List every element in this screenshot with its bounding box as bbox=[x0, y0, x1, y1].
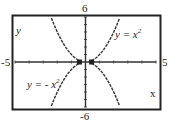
exponent: 2 bbox=[56, 77, 60, 85]
curve-neg-x-squared bbox=[92, 63, 120, 106]
x-axis-label: x bbox=[150, 88, 156, 99]
ymax-label: 6 bbox=[82, 3, 88, 14]
curve-label-upper-text: y = x bbox=[115, 28, 138, 40]
curve-x-squared bbox=[51, 18, 79, 61]
point-marker bbox=[89, 60, 94, 65]
curve-label-upper: y = x2 bbox=[115, 28, 141, 40]
y-axis-label: y bbox=[16, 25, 21, 36]
xmin-label: -5 bbox=[1, 57, 10, 68]
ymin-label: -6 bbox=[80, 111, 89, 122]
xmax-label: 5 bbox=[162, 57, 168, 68]
point-marker bbox=[77, 60, 82, 65]
plot-area bbox=[0, 0, 169, 123]
exponent: 2 bbox=[138, 27, 142, 35]
curve-label-lower: y = - x2 bbox=[27, 78, 60, 90]
curve-label-lower-text: y = - x bbox=[27, 78, 56, 90]
